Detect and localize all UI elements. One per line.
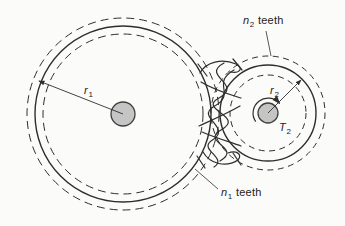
label-r2: r2 (270, 84, 279, 96)
label-n1-rest: teeth (236, 186, 261, 198)
label-t2: T2 (279, 121, 291, 133)
label-t2-sub: 2 (286, 127, 291, 136)
gear-diagram (0, 0, 345, 226)
label-n2-rest: teeth (258, 14, 283, 26)
label-n1-sub: 1 (228, 192, 233, 201)
n1-leader-line (195, 169, 218, 189)
label-n1-var: n (221, 186, 227, 198)
label-n2-teeth: n2teeth (243, 14, 283, 26)
label-r2-sub: 2 (274, 90, 279, 99)
label-r1-sub: 1 (88, 90, 93, 99)
r1-radius-line (39, 81, 123, 114)
label-t2-var: T (279, 121, 286, 133)
n2-leader-line (266, 31, 271, 56)
label-n2-sub: 2 (250, 20, 255, 29)
mesh-teeth-stroke-1 (213, 63, 228, 161)
label-r1: r1 (84, 84, 93, 96)
label-n2-var: n (243, 14, 249, 26)
label-n1-teeth: n1teeth (221, 186, 261, 198)
gear-diagram-figure: r1 r2 T2 n2teeth n1teeth (0, 0, 345, 226)
